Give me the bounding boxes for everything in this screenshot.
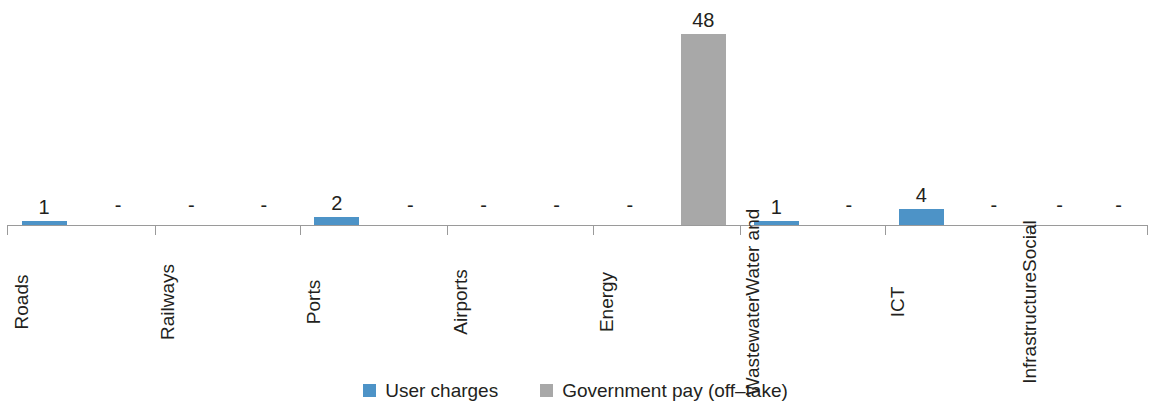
legend-item-label: User charges [385,381,498,400]
plot-area: 1 - - - [7,0,1148,226]
category-band-energy: - 48 [593,0,740,226]
bar-value-label: 2 [331,193,342,213]
legend-item-user-charges[interactable]: User charges [363,381,498,400]
category-band-railways: - - [155,0,300,226]
bar-slot-ict-government-pay: - [958,0,1031,226]
category-band-airports: - - [447,0,593,226]
category-band-ports: 2 - [300,0,447,226]
x-axis-label-ports: Ports [300,232,447,372]
x-axis-label-line: Roads [11,275,151,330]
bar-slot-railways-user-charges: - [155,0,228,226]
bar-slot-roads-government-pay: - [81,0,155,226]
category-band-social-infrastructure: - - [1030,0,1148,226]
bar-value-label: - [990,195,997,215]
bar-slot-ports-government-pay: - [374,0,448,226]
category-band-roads: 1 - [7,0,155,226]
category-band-ict: 4 - [885,0,1030,226]
bar-slot-energy-user-charges: - [593,0,667,226]
bar-energy-government-pay[interactable]: 48 [681,34,726,226]
bar-slot-ict-user-charges: 4 [885,0,958,226]
x-axis-label-line: Airports [450,269,590,334]
x-axis-label-line: Energy [596,272,736,332]
legend-item-government-pay[interactable]: Government pay (off–take) [540,381,788,400]
x-axis-label-line: Railways [158,264,298,340]
bar-slot-airports-user-charges: - [447,0,520,226]
x-axis-category-labels: Roads Railways Ports Airports Energy [7,232,1148,372]
bar-value-label: 4 [916,185,927,205]
x-axis-label-ict: ICT [885,232,1030,372]
bar-value-label: - [260,195,267,215]
bar-value-label: - [1056,195,1063,215]
x-axis-label-social-infrastructure: Social Infrastructure [1030,232,1148,372]
bar-slot-ports-user-charges: 2 [300,0,374,226]
bar-slot-water-and-wastewater-government-pay: - [813,0,886,226]
bar-ict-user-charges[interactable]: 4 [899,209,944,226]
bar-slot-roads-user-charges: 1 [7,0,81,226]
bar-value-label: - [115,195,122,215]
legend-item-label: Government pay (off–take) [562,381,788,400]
x-axis-label-line: ICT [887,287,1027,318]
bar-value-label: - [480,195,487,215]
x-axis-label-airports: Airports [447,232,593,372]
x-axis-label-energy: Energy [593,232,740,372]
x-axis-label-line: Water and [743,209,883,296]
x-axis-label-water-and-wastewater: Water and Wastewater [740,232,885,372]
chart-legend: User charges Government pay (off–take) [0,381,1151,400]
bar-value-label: - [1115,195,1122,215]
bar-slot-social-infrastructure-user-charges: - [1030,0,1089,226]
bar-value-label: - [626,195,633,215]
bar-chart: 1 - - - [0,0,1151,411]
square-swatch-blue-icon [363,384,376,397]
bar-value-label: 48 [692,10,714,30]
category-band-water-and-wastewater: 1 - [740,0,885,226]
bar-slot-airports-government-pay: - [520,0,593,226]
bar-slot-social-infrastructure-government-pay: - [1089,0,1148,226]
x-axis-label-railways: Railways [155,232,300,372]
bar-slot-railways-government-pay: - [228,0,301,226]
x-axis-label-line: Ports [303,280,443,324]
x-axis-label-roads: Roads [7,232,155,372]
bar-value-label: - [553,195,560,215]
bar-value-label: - [407,195,414,215]
bar-value-label: 1 [38,197,49,217]
bar-value-label: - [188,195,195,215]
square-swatch-gray-icon [540,384,553,397]
bar-slot-water-and-wastewater-user-charges: 1 [740,0,813,226]
bar-slot-energy-government-pay: 48 [667,0,741,226]
x-axis-label-line: Social [1019,220,1151,272]
x-axis-line [7,225,1148,226]
x-axis-label-line: Infrastructure [1019,272,1151,384]
